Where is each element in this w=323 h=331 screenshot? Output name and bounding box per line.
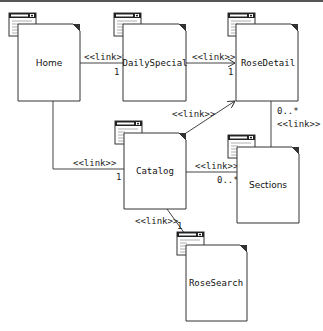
label-catalog-rosedetail: <<link>> (172, 109, 216, 119)
node-label: Home (36, 58, 63, 68)
label-sections-rosedetail: <<link>> (277, 119, 321, 129)
node-rosedetail[interactable]: RoseDetail (228, 13, 298, 101)
mult-dailyspecial-rosedetail: 1 (228, 67, 233, 77)
node-label: Sections (249, 180, 287, 190)
diagram-canvas: <<link>> 1 <<link>> 1 <<link>> <<link>> … (0, 0, 323, 331)
label-home-catalog: <<link>> (73, 158, 117, 168)
label-catalog-sections: <<link>> (195, 161, 239, 171)
node-label: Catalog (136, 166, 174, 176)
mult-catalog-sections: 0..* (217, 175, 239, 185)
label-catalog-rosesearch: <<link>> (135, 216, 179, 226)
node-dailyspecial[interactable]: DailySpecial (114, 13, 188, 101)
node-label: DailySpecial (122, 58, 187, 68)
node-home[interactable]: Home (9, 13, 80, 101)
mult-home-dailyspecial: 1 (114, 67, 119, 77)
node-label: RoseDetail (241, 58, 295, 68)
node-sections[interactable]: Sections (228, 135, 299, 223)
mult-sections-rosedetail: 0..* (277, 106, 299, 116)
node-label: RoseSearch (189, 278, 243, 288)
edge-catalog-rosedetail[interactable] (180, 101, 235, 137)
node-catalog[interactable]: Catalog (115, 121, 186, 209)
mult-home-catalog: 1 (116, 172, 121, 182)
node-rosesearch[interactable]: RoseSearch (177, 232, 247, 321)
label-dailyspecial-rosedetail: <<link>> (192, 52, 236, 62)
mult-catalog-rosesearch: 1 (177, 221, 182, 231)
label-home-dailyspecial: <<link>> (84, 52, 128, 62)
